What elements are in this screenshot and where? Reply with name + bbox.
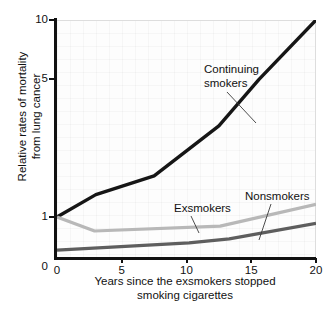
annotation-exsmokers-line-1: Exsmokers [174, 202, 231, 216]
series-line-continuing-smokers [57, 20, 316, 217]
y-axis-title-line-2: from lung cancer [29, 27, 43, 207]
annotation-nonsmokers-line-1: Nonsmokers [245, 190, 310, 204]
y-tick-mark-10 [49, 19, 54, 21]
plot-area [57, 20, 316, 258]
x-axis-title-line-2: smoking cigarettes [40, 288, 330, 302]
annotation-continuing-smokers-line-2: smokers [204, 77, 259, 91]
y-axis-title: Relative rates of mortality from lung ca… [16, 27, 43, 207]
x-axis-title-line-1: Years since the exsmokers stopped [40, 274, 330, 288]
y-tick-label-1: 1 [26, 211, 48, 223]
x-tick-mark-15 [250, 258, 252, 263]
y-tick-mark-5 [49, 78, 54, 80]
x-axis-title: Years since the exsmokers stopped smokin… [40, 274, 330, 302]
annotation-continuing-smokers-line-1: Continuing [204, 63, 259, 77]
x-tick-mark-10 [186, 258, 188, 263]
annotation-continuing-smokers: Continuing smokers [204, 63, 259, 90]
y-axis-line [54, 18, 57, 260]
x-tick-mark-20 [315, 258, 317, 263]
lung-cancer-mortality-chart: 1510005101520 Relative rates of mortalit… [0, 0, 334, 313]
x-tick-mark-5 [121, 258, 123, 263]
annotation-nonsmokers: Nonsmokers [245, 190, 310, 204]
y-axis-title-line-1: Relative rates of mortality [16, 27, 30, 207]
y-tick-label-10: 10 [26, 14, 48, 26]
annotation-exsmokers: Exsmokers [174, 202, 231, 216]
series-layer [57, 20, 316, 258]
y-tick-mark-1 [49, 216, 54, 218]
